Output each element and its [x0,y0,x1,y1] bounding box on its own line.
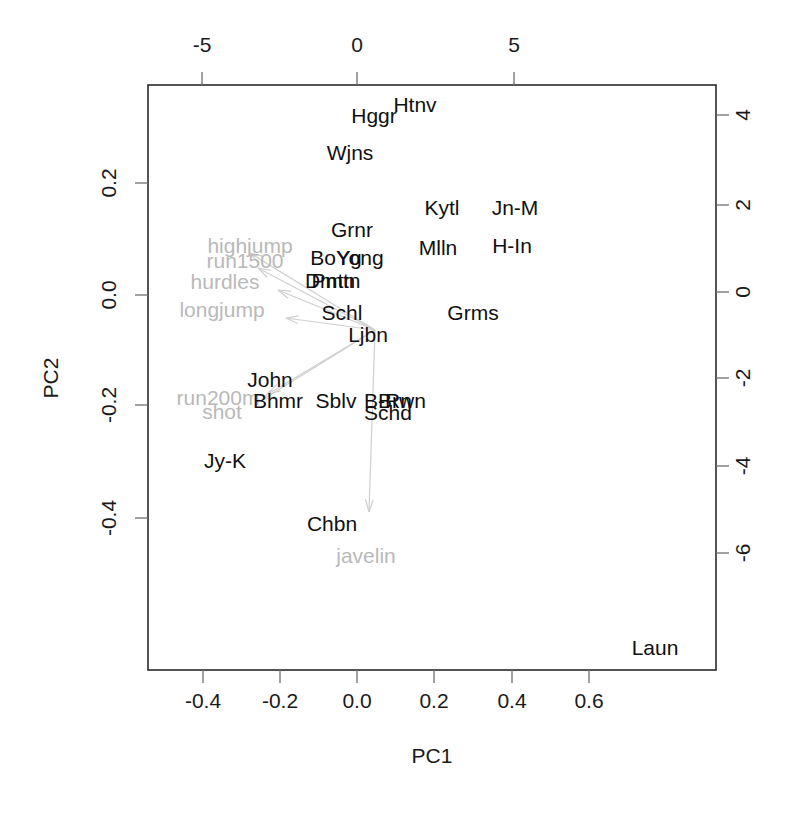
observation-label: Laun [632,636,679,659]
observation-label: Sblv [316,389,357,412]
left-tick-labels: 0.2 0.0 -0.2 -0.4 [97,168,120,536]
tick-label: -5 [193,33,212,56]
bottom-tick-labels: -0.4 -0.2 0.0 0.2 0.4 0.6 [185,689,604,712]
top-ticks [202,72,514,85]
tick-label: 0.4 [497,689,527,712]
tick-label: 0.0 [342,689,371,712]
observation-label: Htnv [393,93,437,116]
loading-label: run1500 [206,249,283,272]
tick-label: 2 [731,199,754,211]
tick-label: -4 [731,456,754,475]
biplot-figure: -0.4 -0.2 0.0 0.2 0.4 0.6 0.2 0.0 -0.2 -… [0,0,806,818]
right-tick-labels: 4 2 0 -2 -4 -6 [731,109,754,563]
observation-label: Schd [364,401,412,424]
observation-label: Pmtn [311,269,360,292]
bottom-ticks [203,670,589,683]
observation-label: Kytl [424,196,459,219]
tick-label: -6 [731,544,754,563]
observation-label: John [247,368,293,391]
y-axis-title: PC2 [39,358,62,399]
observation-label: Jy-K [204,449,246,472]
observation-label: Bhmr [253,389,303,412]
tick-label: 0.6 [574,689,603,712]
observation-label: H-In [492,234,532,257]
biplot-canvas: -0.4 -0.2 0.0 0.2 0.4 0.6 0.2 0.0 -0.2 -… [0,0,806,818]
loading-label: hurdles [191,270,260,293]
right-ticks [716,115,729,553]
tick-label: -0.4 [185,689,222,712]
loading-label: javelin [335,544,396,567]
observation-label: Grnr [331,218,373,241]
observation-label: Yong [336,246,383,269]
observation-label: Ljbn [348,323,388,346]
x-axis-title: PC1 [412,744,453,767]
observation-label: Schl [322,301,363,324]
tick-label: 4 [731,109,754,121]
tick-label: -0.4 [97,500,120,537]
tick-label: -0.2 [97,387,120,423]
tick-label: 0 [351,33,363,56]
loading-label: shot [202,400,242,423]
observation-label: Wjns [327,141,374,164]
observation-label: Jn-M [492,196,539,219]
observation-label: Grms [447,301,498,324]
observation-labels: HtnvHggrWjnsKytlJn-MGrnrMllnH-InBoYgYong… [204,93,678,659]
observation-label: Mlln [419,236,458,259]
tick-label: 0.0 [97,280,120,309]
tick-label: -2 [731,369,754,388]
tick-label: 0.2 [419,689,448,712]
observation-label: Hggr [351,104,397,127]
tick-label: -0.2 [262,689,298,712]
tick-label: 5 [508,33,520,56]
left-ticks [135,183,148,518]
top-tick-labels: -5 0 5 [193,33,520,56]
tick-label: 0 [731,286,754,298]
observation-label: Chbn [307,512,357,535]
tick-label: 0.2 [97,168,120,197]
loading-label: longjump [179,298,264,321]
plot-frame [148,85,716,670]
